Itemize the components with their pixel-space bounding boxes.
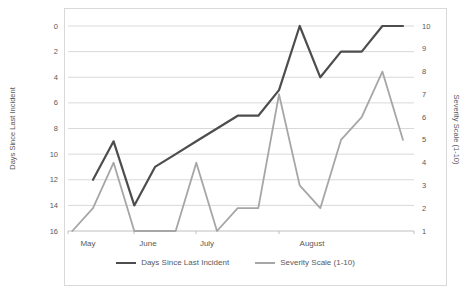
left-axis-title: Days Since Last Incident bbox=[8, 39, 17, 219]
right-axis-tick-label: 8 bbox=[422, 67, 452, 76]
left-axis-tick-label: 16 bbox=[28, 227, 58, 236]
legend-label-days: Days Since Last Incident bbox=[141, 258, 229, 267]
right-axis-tick-label: 5 bbox=[422, 135, 452, 144]
legend-item-severity[interactable]: Severity Scale (1-10) bbox=[255, 258, 355, 267]
legend-label-severity: Severity Scale (1-10) bbox=[280, 258, 355, 267]
left-axis-tick-label: 12 bbox=[28, 175, 58, 184]
right-axis-tick-label: 2 bbox=[422, 204, 452, 213]
right-axis-tick-label: 9 bbox=[422, 44, 452, 53]
x-axis-month-label: August bbox=[300, 239, 325, 248]
chart-canvas bbox=[0, 0, 471, 292]
chart-page: 024681012141610987654321MayJuneJulyAugus… bbox=[0, 0, 471, 292]
legend: Days Since Last Incident Severity Scale … bbox=[0, 258, 471, 267]
series-line-0 bbox=[93, 26, 403, 205]
right-axis-tick-label: 7 bbox=[422, 90, 452, 99]
left-axis-tick-label: 10 bbox=[28, 150, 58, 159]
left-axis-tick-label: 0 bbox=[28, 22, 58, 31]
x-axis-month-label: May bbox=[80, 239, 95, 248]
left-axis-tick-label: 2 bbox=[28, 47, 58, 56]
right-axis-tick-label: 3 bbox=[422, 181, 452, 190]
legend-swatch-severity-line bbox=[255, 262, 275, 264]
right-axis-tick-label: 6 bbox=[422, 113, 452, 122]
right-axis-tick-label: 10 bbox=[422, 22, 452, 31]
left-axis-tick-label: 14 bbox=[28, 201, 58, 210]
x-axis-month-label: June bbox=[139, 239, 156, 248]
left-axis-tick-label: 8 bbox=[28, 124, 58, 133]
right-axis-tick-label: 4 bbox=[422, 158, 452, 167]
series-line-1 bbox=[72, 72, 403, 231]
x-axis-month-label: July bbox=[200, 239, 214, 248]
right-axis-tick-label: 1 bbox=[422, 227, 452, 236]
legend-item-days[interactable]: Days Since Last Incident bbox=[116, 258, 229, 267]
legend-swatch-days-line bbox=[116, 262, 136, 264]
left-axis-tick-label: 6 bbox=[28, 98, 58, 107]
right-axis-title: Severity Scale (1-10) bbox=[452, 40, 461, 220]
left-axis-tick-label: 4 bbox=[28, 73, 58, 82]
